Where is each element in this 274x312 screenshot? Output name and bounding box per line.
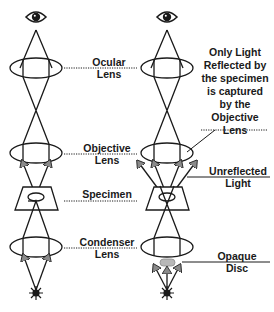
label-line: Lens (70, 248, 144, 260)
label-line: Objective (72, 142, 142, 154)
label-ocular-lens: Ocular Lens (78, 56, 140, 80)
label-opaque-disc: Opaque Disc (205, 250, 269, 274)
label-line: Light (202, 177, 274, 189)
label-line: Condenser (70, 236, 144, 248)
ocular-lens (141, 58, 193, 78)
opaque-disc (160, 259, 175, 266)
light-source-star-icon (160, 286, 174, 300)
eye-icon (26, 12, 46, 22)
label-line: Opaque (205, 250, 269, 262)
eye-icon (157, 12, 177, 22)
note-line: by the (196, 98, 274, 111)
label-darkfield-note: Only Light Reflected by the specimen is … (196, 46, 274, 137)
condenser-lens (10, 237, 62, 257)
specimen-slide (15, 187, 58, 210)
label-line: Unreflected (202, 165, 274, 177)
note-line: the specimen (196, 72, 274, 85)
note-line: Only Light (196, 46, 274, 59)
objective-lens (10, 143, 62, 163)
label-specimen: Specimen (72, 188, 142, 200)
objective-lens (141, 143, 193, 163)
label-line: Lens (72, 154, 142, 166)
ocular-lens (10, 58, 62, 78)
note-line: Objective (196, 111, 274, 124)
label-unreflected-light: Unreflected Light (202, 165, 274, 189)
note-line: Reflected by (196, 59, 274, 72)
note-line: Lens (196, 124, 274, 137)
label-line: Lens (78, 68, 140, 80)
label-line: Ocular (78, 56, 140, 68)
condenser-lens (141, 237, 193, 257)
label-condenser-lens: Condenser Lens (70, 236, 144, 260)
label-line: Specimen (72, 188, 142, 200)
leader-lines (182, 130, 270, 262)
label-objective-lens: Objective Lens (72, 142, 142, 166)
note-line: is captured (196, 85, 274, 98)
label-line: Disc (205, 262, 269, 274)
light-source-star-icon (29, 286, 43, 300)
